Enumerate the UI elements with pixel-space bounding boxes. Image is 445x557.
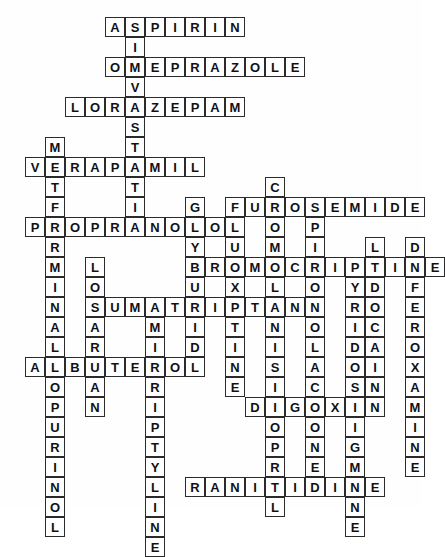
crossword-cell[interactable]: R — [205, 257, 225, 277]
crossword-cell[interactable]: F — [45, 197, 65, 217]
crossword-cell[interactable]: A — [85, 377, 105, 397]
crossword-cell[interactable]: O — [405, 337, 425, 357]
crossword-cell[interactable]: N — [305, 437, 325, 457]
crossword-cell[interactable]: G — [285, 397, 305, 417]
crossword-cell[interactable]: R — [45, 237, 65, 257]
crossword-cell[interactable]: L — [265, 57, 285, 77]
crossword-cell[interactable]: E — [165, 97, 185, 117]
crossword-cell[interactable]: I — [245, 477, 265, 497]
crossword-cell[interactable]: O — [165, 357, 185, 377]
crossword-cell[interactable]: O — [265, 217, 285, 237]
crossword-cell[interactable]: R — [305, 257, 325, 277]
crossword-cell[interactable]: R — [65, 157, 85, 177]
crossword-cell[interactable]: L — [85, 257, 105, 277]
crossword-cell[interactable]: L — [45, 357, 65, 377]
crossword-cell[interactable]: E — [145, 57, 165, 77]
crossword-cell[interactable]: T — [365, 257, 385, 277]
crossword-cell[interactable]: M — [265, 237, 285, 257]
crossword-cell[interactable]: N — [305, 297, 325, 317]
crossword-cell[interactable]: D — [305, 477, 325, 497]
crossword-cell[interactable]: I — [265, 377, 285, 397]
crossword-cell[interactable]: S — [125, 17, 145, 37]
crossword-cell[interactable]: A — [205, 477, 225, 497]
crossword-cell[interactable]: N — [145, 217, 165, 237]
crossword-cell[interactable]: O — [305, 417, 325, 437]
crossword-cell[interactable]: N — [85, 397, 105, 417]
crossword-cell[interactable]: O — [85, 97, 105, 117]
crossword-cell[interactable]: N — [145, 517, 165, 537]
crossword-cell[interactable]: T — [45, 177, 65, 197]
crossword-cell[interactable]: P — [305, 217, 325, 237]
crossword-cell[interactable]: Y — [185, 237, 205, 257]
crossword-cell[interactable]: M — [125, 57, 145, 77]
crossword-cell[interactable]: P — [345, 257, 365, 277]
crossword-cell[interactable]: A — [365, 337, 385, 357]
crossword-cell[interactable]: O — [365, 297, 385, 317]
crossword-cell[interactable]: R — [345, 297, 365, 317]
crossword-cell[interactable]: N — [45, 297, 65, 317]
crossword-cell[interactable]: E — [405, 197, 425, 217]
crossword-cell[interactable]: B — [65, 357, 85, 377]
crossword-cell[interactable]: C — [265, 177, 285, 197]
crossword-cell[interactable]: L — [45, 517, 65, 537]
crossword-cell[interactable]: I — [45, 457, 65, 477]
crossword-cell[interactable]: G — [345, 437, 365, 457]
crossword-cell[interactable]: O — [245, 57, 265, 77]
crossword-cell[interactable]: N — [405, 437, 425, 457]
crossword-cell[interactable]: O — [265, 257, 285, 277]
crossword-cell[interactable]: S — [305, 197, 325, 217]
crossword-cell[interactable]: V — [25, 157, 45, 177]
crossword-cell[interactable]: T — [105, 357, 125, 377]
crossword-cell[interactable]: N — [225, 477, 245, 497]
crossword-cell[interactable]: E — [345, 517, 365, 537]
crossword-cell[interactable]: O — [305, 317, 325, 337]
crossword-cell[interactable]: A — [265, 297, 285, 317]
crossword-cell[interactable]: F — [225, 197, 245, 217]
crossword-cell[interactable]: N — [405, 257, 425, 277]
crossword-cell[interactable]: T — [225, 317, 245, 337]
crossword-cell[interactable]: M — [125, 297, 145, 317]
crossword-cell[interactable]: N — [45, 477, 65, 497]
crossword-cell[interactable]: N — [365, 397, 385, 417]
crossword-cell[interactable]: D — [185, 337, 205, 357]
crossword-cell[interactable]: S — [85, 297, 105, 317]
crossword-cell[interactable]: U — [45, 417, 65, 437]
crossword-cell[interactable]: E — [405, 457, 425, 477]
crossword-cell[interactable]: I — [165, 157, 185, 177]
crossword-cell[interactable]: N — [365, 377, 385, 397]
crossword-cell[interactable]: Y — [145, 457, 165, 477]
crossword-cell[interactable]: R — [145, 357, 165, 377]
crossword-cell[interactable]: O — [305, 277, 325, 297]
crossword-cell[interactable]: D — [245, 397, 265, 417]
crossword-cell[interactable]: R — [265, 457, 285, 477]
crossword-cell[interactable]: E — [365, 477, 385, 497]
crossword-cell[interactable]: D — [405, 237, 425, 257]
crossword-cell[interactable]: A — [25, 357, 45, 377]
crossword-cell[interactable]: I — [125, 197, 145, 217]
crossword-cell[interactable]: P — [185, 97, 205, 117]
crossword-cell[interactable]: A — [45, 317, 65, 337]
crossword-cell[interactable]: M — [145, 157, 165, 177]
crossword-cell[interactable]: T — [125, 177, 145, 197]
crossword-cell[interactable]: O — [225, 257, 245, 277]
crossword-cell[interactable]: E — [45, 157, 65, 177]
crossword-cell[interactable]: U — [185, 277, 205, 297]
crossword-cell[interactable]: E — [325, 197, 345, 217]
crossword-cell[interactable]: L — [45, 337, 65, 357]
crossword-cell[interactable]: M — [225, 97, 245, 117]
crossword-cell[interactable]: L — [265, 277, 285, 297]
crossword-cell[interactable]: B — [185, 257, 205, 277]
crossword-cell[interactable]: R — [105, 217, 125, 237]
crossword-cell[interactable]: I — [345, 317, 365, 337]
crossword-cell[interactable]: R — [145, 377, 165, 397]
crossword-cell[interactable]: T — [265, 477, 285, 497]
crossword-cell[interactable]: P — [225, 297, 245, 317]
crossword-cell[interactable]: A — [105, 17, 125, 37]
crossword-cell[interactable]: O — [85, 277, 105, 297]
crossword-cell[interactable]: L — [145, 477, 165, 497]
crossword-cell[interactable]: O — [285, 197, 305, 217]
crossword-cell[interactable]: O — [345, 357, 365, 377]
crossword-cell[interactable]: A — [125, 97, 145, 117]
crossword-cell[interactable]: I — [45, 277, 65, 297]
crossword-cell[interactable]: X — [405, 357, 425, 377]
